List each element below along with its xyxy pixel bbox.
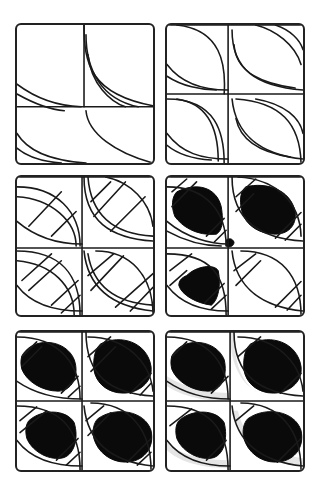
ink-drawing-icon [167, 177, 303, 315]
tile-step-6 [165, 330, 305, 472]
tile-step-5 [15, 330, 155, 472]
tile-step-3 [15, 175, 155, 317]
ink-drawing-icon [167, 332, 303, 470]
ink-drawing-icon [167, 25, 303, 163]
tile-step-1 [15, 23, 155, 165]
ink-drawing-icon [17, 177, 153, 315]
tile-step-2 [165, 23, 305, 165]
ink-drawing-icon [17, 25, 153, 163]
ink-drawing-icon [17, 332, 153, 470]
tile-step-4 [165, 175, 305, 317]
